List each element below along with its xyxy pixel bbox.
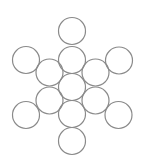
circle-inner-lower-left — [36, 87, 63, 114]
circle-outer-bottom-left — [13, 102, 40, 129]
circle-inner-lower-right — [82, 87, 109, 114]
circle-outer-top-right — [106, 47, 133, 74]
circle-outer-bottom-right — [105, 102, 132, 129]
circle-inner-upper-right — [82, 59, 109, 86]
circle-top — [59, 18, 86, 45]
circle-outer-top-left — [13, 47, 40, 74]
circle-bottom — [59, 128, 86, 155]
circle-inner-upper-left — [36, 59, 63, 86]
circle-pattern-diagram — [0, 0, 148, 161]
